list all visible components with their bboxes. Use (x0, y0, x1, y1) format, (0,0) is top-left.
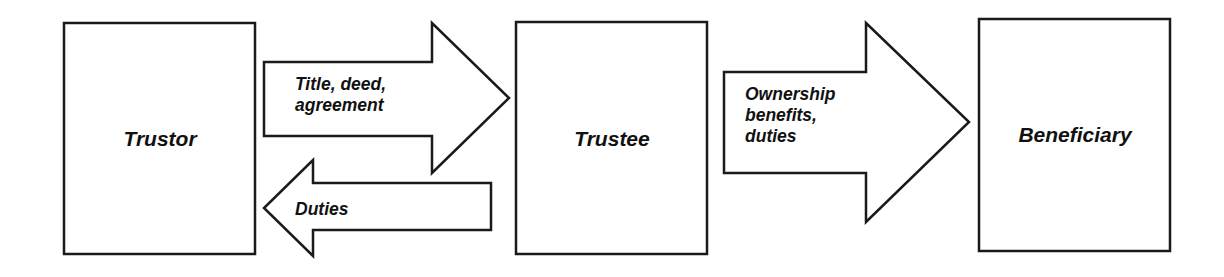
edge-trustee-to-trustor: Duties (264, 160, 491, 256)
edge-trustor-to-trustee: Title, deed, agreement (264, 23, 509, 173)
edge-label-line: Ownership (745, 84, 836, 104)
trustee-label: Trustee (574, 127, 650, 150)
edge-label-line: Title, deed, (295, 74, 386, 94)
edge-label-title-deed-agreement: Title, deed, agreement (295, 74, 391, 115)
edge-trustee-to-beneficiary: Ownership benefits, duties (724, 23, 969, 222)
edge-label-line: benefits, (745, 105, 817, 125)
edge-label-duties: Duties (295, 199, 349, 219)
node-beneficiary: Beneficiary (979, 19, 1170, 251)
node-trustee: Trustee (516, 22, 707, 254)
node-trustor: Trustor (64, 23, 255, 254)
beneficiary-label: Beneficiary (1018, 123, 1133, 146)
edge-label-line: agreement (295, 95, 385, 115)
edge-label-line: duties (745, 126, 797, 146)
trust-relationship-diagram: Trustor Title, deed, agreement Duties Tr… (0, 0, 1224, 277)
trustor-label: Trustor (123, 127, 198, 150)
